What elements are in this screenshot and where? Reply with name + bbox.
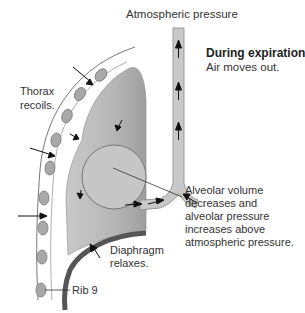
rib9-label: Rib 9 <box>72 284 98 297</box>
alveolar-label-line1: Alveolar volume <box>185 184 263 197</box>
alveolar-label-line3: alveolar pressure <box>185 210 269 223</box>
diaphragm-label-line2: relaxes. <box>110 257 149 270</box>
diagram-subtitle: Air moves out. <box>206 61 280 74</box>
alveolar-label-line2: decreases and <box>185 197 257 210</box>
diaphragm-label-line1: Diaphragm <box>110 244 164 257</box>
alveolar-label-line4: increases above <box>185 223 265 236</box>
thorax-label-line2: recoils. <box>20 99 55 112</box>
alveolus <box>82 145 146 209</box>
atmospheric-pressure-label: Atmospheric pressure <box>126 8 238 21</box>
alveolar-label-line5: atmospheric pressure. <box>185 236 294 249</box>
thorax-label-line1: Thorax <box>20 85 54 98</box>
diagram-title: During expiration <box>206 47 305 60</box>
